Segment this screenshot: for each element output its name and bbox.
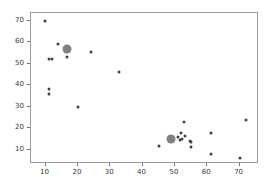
plot-area: [30, 12, 258, 163]
y-tick-label: 20: [15, 123, 24, 132]
y-tick: [27, 106, 30, 107]
y-tick-label: 70: [15, 15, 24, 24]
data-point: [210, 131, 213, 134]
data-point: [118, 71, 121, 74]
data-point: [183, 134, 186, 137]
y-tick: [27, 84, 30, 85]
data-point: [181, 138, 184, 141]
x-tick: [77, 163, 78, 166]
x-tick: [206, 163, 207, 166]
y-tick: [27, 127, 30, 128]
x-tick: [174, 163, 175, 166]
centroid-marker: [62, 44, 71, 53]
data-point: [182, 120, 185, 123]
y-tick-label: 40: [15, 80, 24, 89]
data-point: [47, 87, 50, 90]
data-point: [245, 119, 248, 122]
data-point: [180, 131, 183, 134]
x-tick-label: 10: [40, 168, 49, 177]
x-tick-label: 20: [72, 168, 81, 177]
y-tick: [27, 63, 30, 64]
x-tick-label: 40: [137, 168, 146, 177]
data-point: [51, 58, 54, 61]
y-tick-label: 60: [15, 37, 24, 46]
x-tick-label: 30: [105, 168, 114, 177]
x-tick: [45, 163, 46, 166]
data-point: [76, 105, 79, 108]
data-point: [48, 92, 51, 95]
data-point: [57, 43, 60, 46]
data-point: [210, 153, 213, 156]
x-tick-label: 70: [234, 168, 243, 177]
y-tick-label: 50: [15, 58, 24, 67]
data-points-layer: [31, 13, 257, 162]
y-tick: [27, 20, 30, 21]
data-point: [89, 51, 92, 54]
x-tick-label: 50: [169, 168, 178, 177]
y-tick-label: 30: [15, 101, 24, 110]
centroid-marker: [166, 135, 175, 144]
x-tick: [109, 163, 110, 166]
y-tick: [27, 41, 30, 42]
y-tick-label: 10: [15, 144, 24, 153]
data-point: [190, 146, 193, 149]
data-point: [190, 140, 193, 143]
data-point: [158, 144, 161, 147]
y-tick: [27, 149, 30, 150]
data-point: [239, 156, 242, 159]
data-point: [65, 56, 68, 59]
data-point: [43, 19, 46, 22]
x-tick: [239, 163, 240, 166]
x-tick-label: 60: [202, 168, 211, 177]
scatter-plot-figure: 1020304050607010203040506070: [0, 0, 268, 189]
x-tick: [142, 163, 143, 166]
